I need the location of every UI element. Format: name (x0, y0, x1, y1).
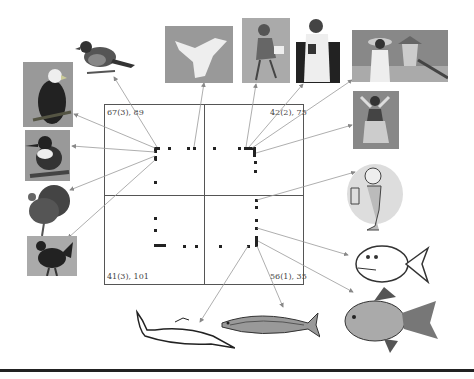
turkey-image (22, 183, 70, 236)
bald-eagle-image (23, 62, 73, 127)
kingfisher-image (25, 130, 70, 181)
mermaid-image (345, 160, 407, 232)
doctor-image (296, 18, 340, 83)
cartoon-fish-image (352, 240, 430, 288)
bottom-rule (0, 369, 474, 372)
hula-dancer-image (353, 91, 399, 149)
woman-temple-image (352, 30, 448, 82)
robin-image (75, 35, 137, 81)
goldfish-image (340, 283, 440, 353)
walking-woman-image (242, 18, 290, 83)
rooster-image (27, 236, 77, 276)
mackerel-image (220, 305, 320, 345)
angel-image (165, 26, 233, 83)
